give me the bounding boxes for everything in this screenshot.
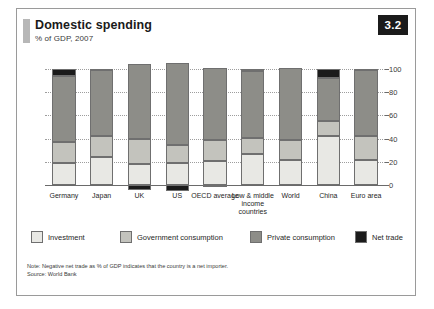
bar-segment-investment[interactable] — [203, 161, 226, 185]
bar-group[interactable] — [279, 63, 302, 197]
bar-segment-government[interactable] — [279, 140, 302, 160]
bar-group[interactable] — [354, 63, 377, 197]
legend-swatch-net_trade — [355, 231, 367, 243]
bar-segment-government[interactable] — [128, 139, 151, 165]
bar-group[interactable] — [166, 63, 189, 197]
y-axis-tick-label: 20 — [389, 158, 397, 167]
legend-label: Private consumption — [267, 233, 335, 242]
legend-label: Government consumption — [137, 233, 223, 242]
bar-segment-investment[interactable] — [279, 160, 302, 186]
bar-segment-net_trade[interactable] — [241, 69, 264, 71]
bar-group[interactable] — [203, 63, 226, 197]
legend-label: Net trade — [372, 233, 403, 242]
bar-segment-net_trade[interactable] — [203, 185, 226, 187]
bar-segment-private[interactable] — [166, 63, 189, 145]
bar-segment-private[interactable] — [90, 70, 113, 136]
title-accent-bar — [23, 19, 30, 43]
bar-segment-net_trade[interactable] — [128, 185, 151, 190]
y-axis-tick-label: 60 — [389, 111, 397, 120]
legend-swatch-government — [120, 231, 132, 243]
y-axis-tick-label: 80 — [389, 88, 397, 97]
legend-item[interactable]: Private consumption — [250, 231, 335, 243]
y-axis-tick-label: 0 — [389, 181, 393, 190]
y-axis-tick-label: 100 — [389, 64, 402, 73]
x-axis-category-label: Euro area — [340, 192, 393, 200]
bar-group[interactable] — [317, 63, 340, 197]
bar-segment-private[interactable] — [128, 64, 151, 139]
bar-group[interactable] — [241, 63, 264, 197]
bar-segment-investment[interactable] — [241, 154, 264, 185]
bar-segment-government[interactable] — [203, 140, 226, 161]
bar-group[interactable] — [90, 63, 113, 197]
bar-segment-private[interactable] — [203, 68, 226, 140]
bar-segment-net_trade[interactable] — [317, 69, 340, 78]
bar-segment-investment[interactable] — [128, 164, 151, 185]
y-axis-tick-label: 40 — [389, 134, 397, 143]
bar-segment-government[interactable] — [52, 142, 75, 163]
figure-panel: Domestic spending % of GDP, 2007 3.2 020… — [16, 8, 416, 296]
note-text: Note: Negative net trade as % of GDP ind… — [27, 263, 407, 271]
bar-segment-net_trade[interactable] — [52, 69, 75, 76]
figure-subtitle: % of GDP, 2007 — [35, 34, 93, 43]
page-title: Domestic spending — [35, 18, 152, 32]
bar-segment-government[interactable] — [354, 136, 377, 159]
bar-segment-net_trade[interactable] — [166, 185, 189, 191]
bar-segment-private[interactable] — [52, 76, 75, 142]
status-badge: 3.2 — [378, 15, 408, 35]
figure-header: Domestic spending % of GDP, 2007 3.2 — [17, 9, 415, 55]
chart-legend: InvestmentGovernment consumptionPrivate … — [17, 231, 415, 257]
legend-label: Investment — [48, 233, 85, 242]
bar-group[interactable] — [52, 63, 75, 197]
chart-area: 020406080100GermanyJapanUKUSOECD average… — [17, 55, 415, 225]
legend-item[interactable]: Investment — [31, 231, 85, 243]
bar-segment-investment[interactable] — [90, 157, 113, 185]
bar-segment-net_trade[interactable] — [90, 69, 113, 71]
bar-segment-net_trade[interactable] — [354, 69, 377, 71]
bar-segment-investment[interactable] — [52, 163, 75, 185]
bar-segment-government[interactable] — [166, 145, 189, 164]
bar-segment-private[interactable] — [317, 78, 340, 121]
figure-footer: Note: Negative net trade as % of GDP ind… — [27, 263, 407, 278]
legend-swatch-private — [250, 231, 262, 243]
source-text: Source: World Bank — [27, 271, 407, 279]
bar-segment-government[interactable] — [241, 138, 264, 154]
bar-segment-private[interactable] — [354, 70, 377, 136]
plot-canvas: 020406080100GermanyJapanUKUSOECD average… — [45, 63, 385, 197]
bar-segment-investment[interactable] — [354, 160, 377, 186]
bar-segment-investment[interactable] — [166, 163, 189, 185]
legend-swatch-investment — [31, 231, 43, 243]
legend-item[interactable]: Government consumption — [120, 231, 223, 243]
bar-segment-government[interactable] — [317, 121, 340, 136]
legend-item[interactable]: Net trade — [355, 231, 403, 243]
bar-segment-private[interactable] — [241, 71, 264, 137]
bar-segment-private[interactable] — [279, 68, 302, 140]
bar-group[interactable] — [128, 63, 151, 197]
bar-segment-government[interactable] — [90, 136, 113, 157]
bar-segment-investment[interactable] — [317, 136, 340, 185]
